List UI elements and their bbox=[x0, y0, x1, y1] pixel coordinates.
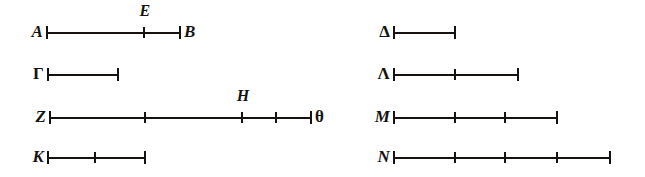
segment-end-tick bbox=[609, 151, 611, 164]
segment-inner-tick bbox=[143, 27, 145, 38]
segment-line bbox=[50, 117, 311, 119]
segment-end-tick bbox=[179, 26, 181, 39]
segment-start-tick bbox=[393, 68, 395, 81]
segment-end-tick bbox=[117, 68, 119, 81]
line-segment-figure: EABΓHZθKΔΛMN bbox=[0, 0, 645, 177]
segment-end-tick bbox=[310, 111, 312, 124]
segment-start-label-N: N bbox=[378, 148, 390, 165]
segment-end-tick bbox=[517, 68, 519, 81]
segment-start-tick bbox=[46, 26, 48, 39]
segment-end-tick bbox=[556, 111, 558, 124]
segment-start-label-A: A bbox=[31, 23, 43, 40]
segment-start-label-K: K bbox=[32, 148, 44, 165]
segment-inner-tick bbox=[504, 152, 506, 163]
segment-line bbox=[394, 32, 455, 34]
segment-line bbox=[394, 157, 610, 159]
segment-inner-tick bbox=[241, 112, 243, 123]
segment-inner-tick bbox=[454, 152, 456, 163]
segment-start-tick bbox=[393, 151, 395, 164]
segment-end-label-θ: θ bbox=[315, 108, 324, 125]
segment-end-tick bbox=[144, 151, 146, 164]
segment-start-tick bbox=[49, 111, 51, 124]
segment-start-tick bbox=[393, 26, 395, 39]
tick-label-H: H bbox=[237, 88, 250, 104]
segment-start-label-Γ: Γ bbox=[33, 65, 44, 82]
segment-line bbox=[47, 32, 180, 34]
segment-start-label-Δ: Δ bbox=[379, 23, 390, 40]
segment-start-tick bbox=[47, 68, 49, 81]
segment-inner-tick bbox=[504, 112, 506, 123]
tick-label-E: E bbox=[140, 3, 151, 19]
segment-start-label-Λ: Λ bbox=[378, 65, 390, 82]
segment-start-label-M: M bbox=[375, 108, 390, 125]
segment-line bbox=[48, 157, 145, 159]
segment-start-label-Z: Z bbox=[35, 108, 46, 125]
segment-line bbox=[48, 74, 118, 76]
segment-inner-tick bbox=[275, 112, 277, 123]
segment-line bbox=[394, 117, 557, 119]
segment-start-tick bbox=[393, 111, 395, 124]
segment-inner-tick bbox=[454, 69, 456, 80]
segment-inner-tick bbox=[94, 152, 96, 163]
segment-inner-tick bbox=[144, 112, 146, 123]
segment-start-tick bbox=[47, 151, 49, 164]
segment-end-label-B: B bbox=[184, 23, 196, 40]
segment-inner-tick bbox=[556, 152, 558, 163]
segment-inner-tick bbox=[454, 112, 456, 123]
segment-end-tick bbox=[454, 26, 456, 39]
segment-line bbox=[394, 74, 518, 76]
